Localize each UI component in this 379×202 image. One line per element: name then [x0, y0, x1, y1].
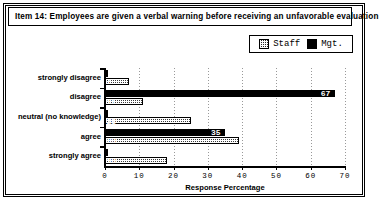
x-axis-title: Response Percentage	[185, 183, 264, 192]
x-axis-tick	[311, 166, 312, 170]
bar-value-label-staff: 39	[107, 137, 117, 145]
x-gridline	[345, 68, 346, 166]
bar-value-label-staff: 7	[107, 78, 112, 86]
y-axis-category-label: strongly disagree	[0, 73, 101, 83]
y-axis-category-text: strongly agree	[49, 151, 101, 160]
x-axis-tick	[105, 166, 106, 170]
y-axis-tick	[100, 68, 104, 70]
bar-mgt	[105, 90, 335, 97]
bar-value-label-staff: 18	[107, 157, 117, 165]
y-axis-tick	[100, 146, 104, 148]
x-axis-tick-label: 20	[168, 172, 179, 180]
bar-staff	[105, 137, 239, 144]
y-axis-tick	[100, 107, 104, 109]
x-gridline	[276, 68, 277, 166]
y-axis-category-text: strongly disagree	[38, 73, 101, 82]
x-axis-tick-label: 50	[271, 172, 282, 180]
x-gridline	[242, 68, 243, 166]
y-axis-category-label: disagree	[0, 92, 101, 102]
x-axis-tick	[139, 166, 140, 170]
x-axis-tick	[345, 166, 346, 170]
x-axis-tick-label: 70	[339, 172, 350, 180]
x-gridline	[311, 68, 312, 166]
x-axis-tick-label: 10	[134, 172, 145, 180]
x-axis-tick-label: 60	[305, 172, 316, 180]
bar-mgt	[105, 129, 225, 136]
y-axis-category-text: agree	[81, 132, 101, 141]
x-axis-tick-label: 30	[202, 172, 213, 180]
y-axis-tick	[100, 127, 104, 129]
y-axis-tick	[100, 88, 104, 90]
x-axis-tick	[242, 166, 243, 170]
bar-mgt	[105, 149, 108, 156]
bar-value-label-mgt: 67	[321, 90, 331, 98]
x-axis-tick	[276, 166, 277, 170]
y-axis-category-label: agree	[0, 132, 101, 142]
y-axis-category-text: neutral (no knowledge)	[18, 112, 101, 121]
y-axis-category-label: neutral (no knowledge)	[0, 112, 101, 122]
x-axis-line	[104, 166, 346, 168]
y-axis-category-label: strongly agree	[0, 151, 101, 161]
bar-staff	[105, 117, 191, 124]
x-axis-tick	[208, 166, 209, 170]
bar-mgt	[105, 110, 108, 117]
x-axis-tick	[174, 166, 175, 170]
x-axis-tick-label: 40	[237, 172, 248, 180]
y-axis-category-text: disagree	[70, 92, 101, 101]
bar-value-label-staff: 25	[107, 118, 117, 126]
x-gridline	[208, 68, 209, 166]
x-axis-tick-label: 0	[102, 172, 108, 180]
bar-value-label-staff: 11	[107, 98, 117, 106]
